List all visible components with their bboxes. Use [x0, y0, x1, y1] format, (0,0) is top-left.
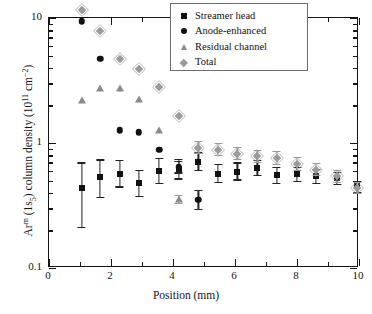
x-major-tick [49, 259, 50, 266]
y-axis-title: Arm (1s5) column density (1011 cm−2) [20, 26, 37, 276]
error-bar-cap [312, 183, 320, 184]
error-bar-cap [273, 183, 281, 184]
y-minor-tick [353, 171, 357, 172]
data-point-diamond [194, 143, 202, 151]
x-tick-label: 2 [95, 270, 125, 281]
y-minor-tick [49, 46, 53, 47]
circle-icon [181, 28, 187, 34]
data-point-diamond [174, 112, 182, 120]
data-point-diamond [155, 83, 163, 91]
data-point-triangle [155, 126, 163, 133]
error-bar-cap [78, 162, 86, 163]
y-minor-tick [353, 83, 357, 84]
data-point-triangle [78, 97, 86, 104]
y-minor-tick [353, 24, 357, 25]
y-minor-tick [49, 37, 53, 38]
x-minor-tick [142, 262, 143, 266]
x-tick-label: 6 [219, 270, 249, 281]
x-minor-tick [266, 262, 267, 266]
data-point-circle [78, 18, 85, 25]
x-major-tick [359, 259, 360, 266]
x-tick-label: 8 [281, 270, 311, 281]
legend-label: Residual channel [195, 42, 267, 53]
data-point-circle [116, 127, 123, 134]
data-point-diamond [135, 65, 143, 73]
y-minor-tick [49, 149, 53, 150]
data-point-diamond [77, 6, 85, 14]
x-major-tick [235, 259, 236, 266]
data-point-diamond [312, 166, 320, 174]
data-point-triangle [96, 85, 104, 92]
error-bar-cap [175, 159, 183, 160]
legend-marker-diamond [177, 56, 191, 68]
y-major-tick [350, 143, 357, 144]
y-minor-tick [353, 56, 357, 57]
y-minor-tick [49, 105, 53, 106]
legend-item: Residual channel [177, 39, 301, 55]
y-minor-tick [353, 230, 357, 231]
data-point-circle [195, 197, 202, 204]
error-bar-cap [135, 170, 143, 171]
error-bar-cap [96, 197, 104, 198]
y-tick-label: 10 [8, 11, 42, 22]
legend-marker-square [177, 10, 191, 22]
legend-marker-triangle [177, 41, 191, 53]
error-bar-cap [233, 179, 241, 180]
legend-item: Total [177, 55, 301, 71]
x-major-tick [111, 18, 112, 25]
data-point-triangle [135, 95, 143, 102]
y-minor-tick [353, 208, 357, 209]
x-major-tick [359, 18, 360, 25]
error-bar-cap [194, 170, 202, 171]
y-minor-tick [353, 46, 357, 47]
error-bar-cap [116, 186, 124, 187]
error-bar-cap [194, 209, 202, 210]
data-point-square [215, 171, 221, 177]
error-bar-cap [96, 159, 104, 160]
data-point-square [97, 174, 103, 180]
legend-item: Streamer head [177, 8, 301, 24]
data-point-diamond [96, 27, 104, 35]
y-axis-title-text: Arm (1s5) column density (1011 cm−2) [22, 65, 34, 237]
data-point-circle [97, 56, 104, 63]
y-minor-tick [49, 208, 53, 209]
data-point-circle [175, 164, 182, 171]
data-point-square [156, 168, 162, 174]
error-bar-cap [273, 167, 281, 168]
error-bar-cap [194, 190, 202, 191]
y-minor-tick [353, 149, 357, 150]
x-major-tick [49, 18, 50, 25]
legend-label: Total [195, 57, 216, 68]
data-point-square [79, 185, 85, 191]
legend-label: Streamer head [195, 11, 255, 22]
data-point-square [294, 171, 300, 177]
data-point-diamond [293, 160, 301, 168]
x-minor-tick [328, 18, 329, 22]
error-bar-cap [116, 160, 124, 161]
y-minor-tick [49, 230, 53, 231]
y-minor-tick [49, 30, 53, 31]
error-bar-cap [175, 172, 183, 173]
y-minor-tick [49, 181, 53, 182]
data-point-square [234, 169, 240, 175]
x-major-tick [173, 259, 174, 266]
y-major-tick [49, 143, 56, 144]
y-minor-tick [353, 37, 357, 38]
error-bar-cap [333, 184, 341, 185]
error-bar-cap [175, 161, 183, 162]
y-minor-tick [353, 30, 357, 31]
data-point-square [117, 171, 123, 177]
y-major-tick [350, 18, 357, 19]
x-minor-tick [80, 262, 81, 266]
error-bar-cap [135, 196, 143, 197]
y-minor-tick [49, 155, 53, 156]
y-minor-tick [49, 193, 53, 194]
data-point-triangle [116, 85, 124, 92]
y-minor-tick [353, 105, 357, 106]
error-bar-cap [155, 158, 163, 159]
legend-marker-circle [177, 25, 191, 37]
diamond-icon [180, 58, 188, 66]
legend: Streamer headAnode-enhancedResidual chan… [170, 3, 308, 71]
y-minor-tick [49, 83, 53, 84]
triangle-icon [181, 44, 187, 50]
